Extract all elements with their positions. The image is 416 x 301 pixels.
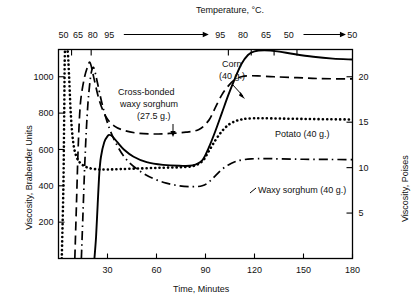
y-tick-label: 1000	[33, 72, 53, 82]
chart-figure: Temperature, °C. 30609012015018020040060…	[0, 0, 416, 301]
annotation-crossbonded-line1: Cross-bonded	[118, 88, 175, 97]
x-tick-label: 30	[102, 265, 112, 275]
y2-tick-label: 20	[359, 72, 369, 82]
x-tick-label: 90	[200, 265, 210, 275]
top-axis-arrow-head	[203, 32, 209, 37]
top-temp-label: 50	[284, 30, 294, 40]
top-temp-label: 80	[88, 30, 98, 40]
series-line-dashed	[75, 62, 353, 258]
series-line-solid	[94, 50, 352, 258]
y2-tick-label: 15	[359, 117, 369, 127]
top-temp-label: 50	[347, 30, 357, 40]
right-axis-title: Viscosity, Poises	[400, 155, 410, 222]
annotation-corn-line1: Corn	[222, 60, 242, 69]
annotation-corn-line2: (40 g.)	[219, 72, 245, 81]
top-temp-label: 80	[238, 30, 248, 40]
y-tick-label: 400	[38, 181, 53, 191]
y2-tick-label: 10	[359, 163, 369, 173]
annotation-crossbonded-line2: waxy sorghum	[120, 100, 178, 109]
bottom-axis-title: Time, Minutes	[173, 285, 229, 294]
y2-tick-label: 5	[359, 208, 364, 218]
annotation-waxy-sorghum: Waxy sorghum (40 g.)	[258, 186, 346, 195]
top-temp-label: 95	[215, 30, 225, 40]
chart-canvas: 3060901201501802004006008001000510152050…	[0, 0, 416, 301]
top-temp-label: 95	[104, 30, 114, 40]
top-temp-label: 65	[73, 30, 83, 40]
y-tick-label: 200	[38, 217, 53, 227]
left-axis-title: Viscosity, Brabender Units	[24, 125, 34, 230]
y-tick-label: 800	[38, 108, 53, 118]
y-tick-label: 600	[38, 145, 53, 155]
x-tick-label: 60	[151, 265, 161, 275]
top-axis-arrow-head	[340, 32, 346, 37]
top-temp-label: 50	[58, 30, 68, 40]
leader-waxy	[250, 188, 256, 193]
annotation-potato: Potato (40 g.)	[275, 130, 330, 139]
x-tick-label: 150	[296, 265, 311, 275]
annotation-crossbonded-line3: (27.5 g.)	[137, 112, 171, 121]
top-temp-label: 65	[261, 30, 271, 40]
x-tick-label: 120	[247, 265, 262, 275]
x-tick-label: 180	[345, 265, 360, 275]
